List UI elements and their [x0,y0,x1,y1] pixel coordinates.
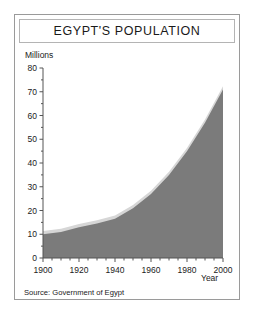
y-tick-label: 60 [17,111,37,121]
y-tick-label: 30 [17,182,37,192]
x-axis-label: Year [201,273,218,283]
x-tick-label: 1960 [131,265,171,275]
chart-card: EGYPT'S POPULATION Millions 010203040506… [14,14,240,300]
y-tick-label: 20 [17,206,37,216]
y-axis-major-ticks [40,68,44,258]
area-series-fill [43,89,223,258]
area-chart-svg [43,68,223,258]
y-axis-label: Millions [25,50,53,60]
y-tick-label: 50 [17,134,37,144]
plot-area [43,68,223,258]
y-tick-label: 40 [17,158,37,168]
y-tick-label: 80 [17,63,37,73]
y-tick-label: 70 [17,87,37,97]
y-tick-label: 0 [17,253,37,263]
x-tick-label: 1900 [23,265,63,275]
y-tick-label: 10 [17,229,37,239]
x-tick-label: 1920 [59,265,99,275]
x-tick-label: 1940 [95,265,135,275]
source-note: Source: Government of Egypt [24,288,124,297]
page-title: EGYPT'S POPULATION [53,24,200,38]
chart-title-box: EGYPT'S POPULATION [19,19,235,43]
